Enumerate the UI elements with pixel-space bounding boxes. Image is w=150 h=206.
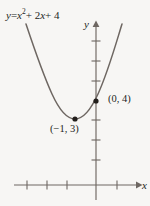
parabola-figure: y=x2+ 2x+ 4 y x (0, 4) (−1, 3) — [0, 0, 150, 206]
parabola-curve — [26, 24, 122, 119]
equation-constant-term: + 4 — [45, 9, 59, 21]
equation-label: y=x2+ 2x+ 4 — [6, 8, 60, 21]
point-vertex-label: (−1, 3) — [50, 124, 79, 135]
point-vertex-marker — [72, 116, 77, 121]
x-axis-label: x — [142, 180, 147, 191]
point-y-intercept-marker — [93, 98, 98, 103]
y-axis-arrowhead — [93, 21, 100, 28]
y-axis-label: y — [84, 19, 89, 30]
x-axis — [14, 181, 143, 190]
point-y-intercept-label: (0, 4) — [108, 94, 131, 105]
y-axis — [92, 21, 101, 201]
equation-linear-term: + 2 — [26, 9, 40, 21]
